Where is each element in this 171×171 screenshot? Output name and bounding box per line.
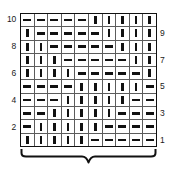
purl-stitch-cell [62, 80, 76, 92]
purl-stitch-cell [89, 27, 103, 39]
knit-stitch-cell [48, 134, 62, 146]
row-number-left [0, 53, 18, 66]
knit-stitch-cell [130, 14, 144, 26]
knit-stitch-icon [26, 69, 29, 77]
knit-stitch-icon [148, 29, 151, 37]
row-number-left [0, 134, 18, 147]
knit-stitch-icon [94, 96, 97, 104]
purl-stitch-icon [91, 45, 99, 48]
purl-stitch-cell [75, 14, 89, 26]
knit-stitch-cell [75, 120, 89, 132]
purl-stitch-cell [48, 80, 62, 92]
purl-stitch-icon [64, 45, 72, 48]
knit-stitch-icon [40, 43, 43, 51]
knit-stitch-cell [62, 94, 76, 106]
purl-stitch-icon [118, 72, 126, 75]
purl-stitch-cell [130, 94, 144, 106]
knit-stitch-cell [21, 41, 35, 53]
knit-stitch-icon [135, 56, 138, 64]
purl-stitch-cell [48, 14, 62, 26]
knit-stitch-icon [40, 136, 43, 144]
stitch-row [21, 120, 156, 133]
knit-stitch-cell [103, 14, 117, 26]
knit-stitch-cell [130, 27, 144, 39]
purl-stitch-cell [48, 27, 62, 39]
row-number-right [158, 67, 171, 80]
knit-stitch-cell [103, 107, 117, 119]
purl-stitch-cell [116, 67, 130, 79]
knit-stitch-icon [135, 29, 138, 37]
purl-stitch-icon [78, 59, 86, 62]
knit-stitch-cell [116, 80, 130, 92]
row-number-left: 2 [0, 120, 18, 133]
knit-stitch-icon [135, 43, 138, 51]
purl-stitch-cell [89, 41, 103, 53]
purl-stitch-cell [103, 134, 117, 146]
purl-stitch-icon [78, 19, 86, 22]
knit-stitch-cell [21, 54, 35, 66]
knit-stitch-icon [26, 56, 29, 64]
pattern-repeat-bracket [20, 148, 157, 165]
row-number-right [158, 120, 171, 133]
knit-stitch-cell [21, 134, 35, 146]
purl-stitch-cell [21, 120, 35, 132]
knit-stitch-cell [48, 107, 62, 119]
purl-stitch-icon [50, 32, 58, 35]
knit-stitch-icon [148, 43, 151, 51]
knit-stitch-icon [121, 96, 124, 104]
purl-stitch-icon [50, 19, 58, 22]
row-number-left: 4 [0, 93, 18, 106]
knit-stitch-cell [143, 14, 156, 26]
purl-stitch-icon [37, 32, 45, 35]
purl-stitch-cell [21, 14, 35, 26]
knit-stitch-icon [67, 136, 70, 144]
purl-stitch-icon [146, 112, 154, 115]
purl-stitch-icon [132, 125, 140, 128]
purl-stitch-icon [23, 112, 31, 115]
purl-stitch-icon [37, 99, 45, 102]
purl-stitch-cell [89, 67, 103, 79]
row-number-left [0, 80, 18, 93]
row-number-right [158, 93, 171, 106]
knit-stitch-cell [116, 14, 130, 26]
purl-stitch-icon [132, 139, 140, 142]
purl-stitch-icon [91, 72, 99, 75]
purl-stitch-icon [105, 72, 113, 75]
stitch-row [21, 67, 156, 80]
purl-stitch-cell [103, 67, 117, 79]
purl-stitch-cell [35, 94, 49, 106]
knit-stitch-cell [143, 41, 156, 53]
purl-stitch-icon [50, 85, 58, 88]
row-number-right [158, 40, 171, 53]
knit-stitch-icon [53, 109, 56, 117]
row-numbers-right: 9 7 5 3 1 [158, 13, 171, 147]
knit-stitch-cell [75, 107, 89, 119]
stitch-grid [20, 13, 157, 147]
purl-stitch-icon [50, 45, 58, 48]
knit-stitch-cell [62, 134, 76, 146]
purl-stitch-cell [116, 54, 130, 66]
knit-stitch-cell [116, 41, 130, 53]
purl-stitch-cell [21, 107, 35, 119]
row-number-left: 8 [0, 40, 18, 53]
stitch-row [21, 107, 156, 120]
knit-stitch-icon [67, 69, 70, 77]
purl-stitch-cell [130, 107, 144, 119]
purl-stitch-icon [105, 139, 113, 142]
purl-stitch-icon [64, 59, 72, 62]
stitch-row [21, 27, 156, 40]
purl-stitch-cell [130, 134, 144, 146]
row-numbers-left: 10 8 6 4 2 [0, 13, 18, 147]
purl-stitch-cell [21, 80, 35, 92]
knit-stitch-icon [108, 83, 111, 91]
knit-stitch-icon [121, 43, 124, 51]
knit-stitch-cell [21, 67, 35, 79]
stitch-row [21, 94, 156, 107]
knit-stitch-icon [40, 69, 43, 77]
purl-stitch-icon [23, 125, 31, 128]
knit-stitch-icon [121, 83, 124, 91]
knit-stitch-icon [108, 29, 111, 37]
purl-stitch-icon [78, 45, 86, 48]
knit-stitch-cell [75, 80, 89, 92]
knit-stitch-icon [40, 123, 43, 131]
